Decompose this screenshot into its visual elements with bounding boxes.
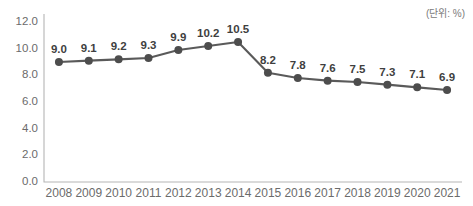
x-tick-label: 2017 [314, 186, 341, 200]
x-tick-label: 2012 [165, 186, 192, 200]
data-point-label: 7.1 [409, 68, 426, 80]
data-point-label: 6.9 [439, 71, 455, 83]
y-tick-label: 4.0 [22, 122, 38, 134]
data-point-label: 7.3 [379, 66, 395, 78]
x-tick-label: 2013 [195, 186, 222, 200]
data-point-label: 7.6 [320, 62, 336, 74]
data-point-marker [174, 46, 182, 54]
x-tick-label: 2009 [75, 186, 102, 200]
data-point-marker [413, 83, 421, 91]
x-tick-label: 2010 [105, 186, 132, 200]
data-point-marker [264, 69, 272, 77]
data-point-marker [443, 86, 451, 94]
data-point-label: 7.5 [350, 63, 367, 75]
y-tick-label: 12.0 [16, 15, 38, 27]
data-point-marker [383, 81, 391, 89]
x-tick-label: 2016 [284, 186, 311, 200]
data-point-label: 9.2 [111, 40, 127, 52]
y-tick-label: 6.0 [22, 95, 38, 107]
point-value-labels: 9.09.19.29.39.910.210.58.27.87.67.57.37.… [51, 23, 455, 83]
y-tick-label: 8.0 [22, 68, 38, 80]
data-point-marker [55, 58, 63, 66]
x-tick-label: 2020 [404, 186, 431, 200]
data-point-marker [85, 57, 93, 65]
x-tick-label: 2008 [46, 186, 73, 200]
chart-canvas: 0.02.04.06.08.010.012.0 2008200920102011… [0, 0, 473, 206]
y-tick-label: 2.0 [22, 148, 38, 160]
data-point-label: 9.0 [51, 43, 67, 55]
y-tick-label: 0.0 [22, 175, 38, 187]
x-tick-label: 2018 [344, 186, 371, 200]
x-tick-label: 2019 [374, 186, 401, 200]
data-point-label: 8.2 [260, 54, 276, 66]
data-point-label: 7.8 [290, 59, 307, 71]
x-tick-label: 2011 [136, 186, 162, 200]
data-point-marker [204, 42, 212, 50]
data-point-label: 10.5 [227, 23, 250, 35]
x-tick-label: 2015 [255, 186, 282, 200]
x-tick-label: 2021 [434, 186, 461, 200]
line-chart-figure: 0.02.04.06.08.010.012.0 2008200920102011… [0, 0, 473, 206]
axis-frame [44, 14, 462, 182]
data-point-marker [115, 55, 123, 63]
data-point-label: 9.1 [81, 42, 98, 54]
data-point-marker [294, 74, 302, 82]
unit-note-label: (단위: %) [426, 7, 465, 19]
data-point-label: 9.9 [170, 31, 186, 43]
axis-lines [44, 14, 462, 182]
data-point-marker [145, 54, 153, 62]
data-point-marker [234, 38, 242, 46]
x-tick-label: 2014 [225, 186, 252, 200]
data-point-marker [324, 77, 332, 85]
data-point-marker [354, 78, 362, 86]
y-axis-tick-labels: 0.02.04.06.08.010.012.0 [16, 15, 38, 187]
data-point-label: 10.2 [197, 27, 219, 39]
data-point-label: 9.3 [141, 39, 157, 51]
x-axis-tick-labels: 2008200920102011201220132014201520162017… [46, 186, 461, 200]
y-tick-label: 10.0 [16, 42, 38, 54]
